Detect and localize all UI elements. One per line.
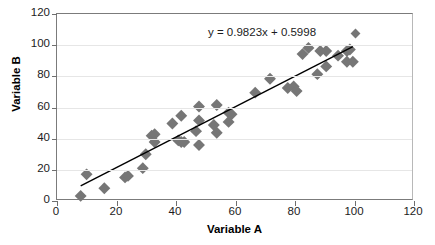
x-axis-tick-label: 80: [288, 206, 301, 217]
data-point-marker: [193, 139, 205, 151]
y-axis-tick-mark: [52, 139, 57, 140]
x-axis-title: Variable A: [56, 223, 413, 235]
y-axis-tick-label: 100: [31, 38, 50, 49]
gridline: [57, 139, 412, 140]
data-point-marker: [211, 99, 223, 111]
plot-area: [56, 13, 413, 200]
x-axis-tick-label: 120: [403, 206, 422, 217]
y-axis-tick-label: 120: [31, 7, 50, 18]
y-axis-tick-mark: [52, 76, 57, 77]
gridline: [57, 108, 412, 109]
y-axis-tick-mark: [52, 14, 57, 15]
x-axis-tick-label: 20: [110, 206, 123, 217]
data-point-marker: [98, 182, 110, 194]
gridline: [57, 76, 412, 77]
data-point-marker: [193, 114, 205, 126]
y-axis-tick-mark: [52, 170, 57, 171]
data-point-marker: [311, 68, 323, 80]
y-axis-tick-label: 60: [37, 101, 50, 112]
data-point-marker: [264, 73, 276, 85]
plot-svg: [57, 14, 412, 199]
y-axis-tick-label: 80: [37, 69, 50, 80]
data-point-marker: [75, 190, 87, 202]
trendline-equation-label: y = 0.9823x + 0.5998: [208, 26, 316, 38]
y-axis-tick-label: 0: [44, 194, 50, 205]
gridline: [57, 45, 412, 46]
x-axis-tick-label: 0: [53, 206, 59, 217]
trendline: [81, 47, 353, 186]
x-axis-tick-label: 60: [229, 206, 242, 217]
x-axis-tick-labels: 020406080100120: [56, 206, 413, 220]
y-axis-tick-label: 40: [37, 132, 50, 143]
data-point-marker: [166, 118, 178, 130]
gridline: [57, 170, 412, 171]
scatter-chart: 020406080100120 Variable B 0204060801001…: [0, 0, 435, 245]
y-axis-tick-mark: [52, 45, 57, 46]
data-point-marker: [137, 162, 149, 174]
y-axis-tick-label: 20: [37, 163, 50, 174]
x-axis-tick-label: 40: [169, 206, 182, 217]
y-axis-title: Variable B: [10, 34, 22, 134]
y-axis-tick-mark: [52, 108, 57, 109]
x-axis-tick-label: 100: [344, 206, 363, 217]
data-point-marker: [175, 110, 187, 122]
data-point-marker: [193, 101, 205, 113]
